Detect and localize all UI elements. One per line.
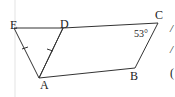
margin-glyph-1: / xyxy=(169,22,174,34)
label-c: C xyxy=(155,8,163,22)
label-d: D xyxy=(60,17,69,31)
angle-c-label: 53° xyxy=(134,28,148,39)
label-e: E xyxy=(10,18,17,32)
label-a: A xyxy=(40,78,49,92)
tick-ea xyxy=(22,47,28,49)
margin-glyph-3: ( xyxy=(170,66,174,80)
geometry-figure: E D C B A 53° / / ( xyxy=(0,0,175,97)
triangle-ead xyxy=(14,28,63,78)
margin-glyph-2: / xyxy=(169,43,174,55)
label-b: B xyxy=(130,69,138,83)
